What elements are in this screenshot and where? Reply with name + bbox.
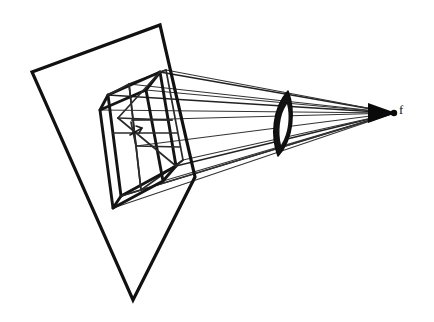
perspective-projection-figure (0, 0, 434, 322)
focal-point-label: f (399, 103, 403, 116)
view-frustum-wireframe (100, 70, 183, 208)
frustum-crossbar-lower (136, 146, 180, 147)
lens-element (274, 91, 292, 156)
frustum-brace-top-left (108, 84, 129, 95)
focal-point (368, 103, 397, 123)
ray-far-bottom-left (113, 113, 394, 208)
ray-back-bottom-left (141, 113, 394, 190)
diagram-canvas: f (0, 0, 434, 322)
ray-chief-upper (132, 113, 394, 120)
frustum-brace-top-right (160, 70, 166, 72)
focal-point-dot (391, 110, 397, 116)
ray-far-top-right (146, 90, 394, 113)
